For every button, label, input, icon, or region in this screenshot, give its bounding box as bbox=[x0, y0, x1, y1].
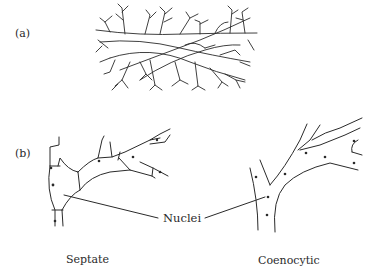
nucleus bbox=[50, 167, 53, 170]
hyphae-drawing bbox=[0, 0, 378, 277]
